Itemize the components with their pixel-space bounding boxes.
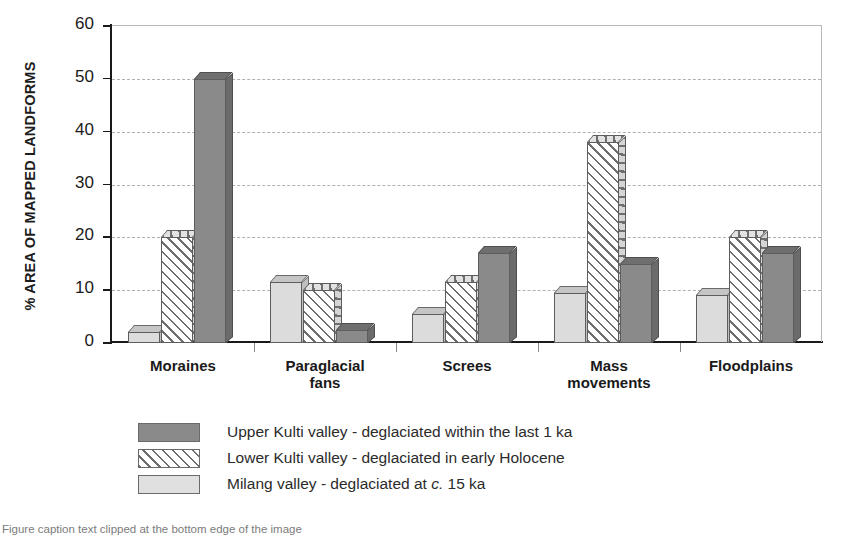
legend-swatch-light-solid [138, 475, 200, 494]
plot-area [112, 25, 822, 342]
bar-front-face [412, 314, 444, 343]
y-tick-mark-40 [103, 131, 112, 133]
x-axis-label-line: Mass [538, 357, 680, 374]
bar-lower-kulti-screes [445, 282, 477, 343]
x-axis-label-line: Moraines [112, 357, 254, 374]
bar-front-face [270, 282, 302, 343]
bar-lower-kulti-paraglacial-fans [303, 290, 335, 343]
x-tick-mark-3 [538, 343, 539, 352]
x-tick-mark-2 [396, 343, 397, 352]
bar-upper-kulti-paraglacial-fans [336, 330, 368, 343]
bar-front-face [620, 264, 652, 343]
bar-milang-floodplains [696, 295, 728, 343]
x-axis-label-paraglacial-fans: Paraglacialfans [254, 357, 396, 391]
bar-side-face [794, 247, 801, 343]
bar-front-face [161, 237, 193, 343]
x-axis-label-line: Floodplains [680, 357, 822, 374]
figure-caption-clipped: Figure caption text clipped at the botto… [0, 524, 844, 536]
x-axis-label-moraines: Moraines [112, 357, 254, 374]
legend-swatch-dark-solid [138, 423, 200, 442]
y-axis-title: % AREA OF MAPPED LANDFORMS [22, 8, 38, 364]
chart-figure: % AREA OF MAPPED LANDFORMS 0102030405060… [0, 0, 844, 536]
legend-label: Milang valley - deglaciated at c. 15 ka [227, 475, 486, 493]
y-tick-mark-20 [103, 236, 112, 238]
x-axis-label-mass-movements: Massmovements [538, 357, 680, 391]
y-tick-label-40: 40 [54, 120, 94, 140]
bar-top-face [336, 323, 374, 330]
bar-front-face [696, 295, 728, 343]
bar-upper-kulti-moraines [194, 79, 226, 343]
y-tick-mark-30 [103, 184, 112, 186]
y-tick-label-10: 10 [54, 278, 94, 298]
y-tick-mark-10 [103, 289, 112, 291]
bar-side-face [510, 247, 517, 343]
figure-caption-text: Figure caption text clipped at the botto… [2, 524, 302, 535]
bar-top-face [303, 283, 341, 290]
legend-item-1: Lower Kulti valley - deglaciated in earl… [138, 445, 573, 471]
bar-top-face [729, 230, 767, 237]
y-tick-label-0: 0 [54, 331, 94, 351]
legend-label: Lower Kulti valley - deglaciated in earl… [227, 449, 565, 467]
bar-top-face [587, 135, 625, 142]
y-tick-label-20: 20 [54, 225, 94, 245]
y-tick-label-30: 30 [54, 173, 94, 193]
bar-top-face [620, 257, 658, 264]
x-axis-label-line: Screes [396, 357, 538, 374]
bar-top-face [194, 72, 232, 79]
bar-milang-mass-movements [554, 293, 586, 343]
bar-front-face [587, 142, 619, 343]
x-axis-label-line: Paraglacial [254, 357, 396, 374]
bar-upper-kulti-screes [478, 253, 510, 343]
legend-item-0: Upper Kulti valley - deglaciated within … [138, 419, 573, 445]
x-axis-label-screes: Screes [396, 357, 538, 374]
y-tick-mark-50 [103, 78, 112, 80]
bar-front-face [303, 290, 335, 343]
y-tick-label-60: 60 [54, 14, 94, 34]
bar-side-face [652, 257, 659, 343]
bar-front-face [128, 332, 160, 343]
x-axis-label-line: fans [254, 374, 396, 391]
x-tick-mark-1 [254, 343, 255, 352]
bar-side-face [226, 73, 233, 343]
bar-lower-kulti-floodplains [729, 237, 761, 343]
legend-item-2: Milang valley - deglaciated at c. 15 ka [138, 471, 573, 497]
legend-label: Upper Kulti valley - deglaciated within … [227, 423, 573, 441]
chart-legend: Upper Kulti valley - deglaciated within … [138, 419, 573, 497]
bar-front-face [336, 330, 368, 343]
y-tick-label-50: 50 [54, 67, 94, 87]
bar-upper-kulti-mass-movements [620, 264, 652, 343]
bar-front-face [554, 293, 586, 343]
bar-front-face [478, 253, 510, 343]
x-axis-label-floodplains: Floodplains [680, 357, 822, 374]
x-tick-mark-4 [680, 343, 681, 352]
bar-lower-kulti-moraines [161, 237, 193, 343]
bar-upper-kulti-floodplains [762, 253, 794, 343]
y-tick-mark-0 [103, 342, 112, 344]
x-axis-label-line: movements [538, 374, 680, 391]
bar-lower-kulti-mass-movements [587, 142, 619, 343]
bar-milang-screes [412, 314, 444, 343]
bar-milang-moraines [128, 332, 160, 343]
bar-top-face [478, 246, 516, 253]
bar-front-face [762, 253, 794, 343]
y-tick-mark-60 [103, 25, 112, 27]
bar-front-face [729, 237, 761, 343]
bar-front-face [445, 282, 477, 343]
bar-top-face [270, 275, 308, 282]
bar-front-face [194, 79, 226, 343]
bar-milang-paraglacial-fans [270, 282, 302, 343]
legend-swatch-diagonal-hatch [138, 449, 200, 468]
bar-top-face [762, 246, 800, 253]
